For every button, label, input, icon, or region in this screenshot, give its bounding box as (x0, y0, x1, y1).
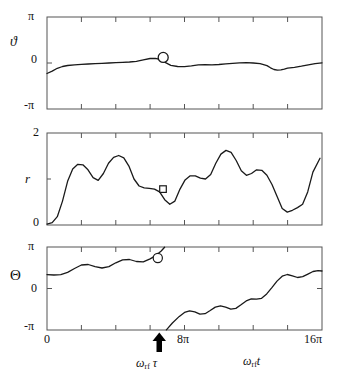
panel-theta-curve-branch1 (47, 247, 165, 275)
panel-vartheta-ylabel: ϑ (10, 35, 17, 49)
panel-vartheta-ytick-zero: 0 (31, 53, 37, 65)
figure-container: ϑ π 0 -π (0, 0, 348, 383)
panel-vartheta-frame (47, 17, 322, 109)
panel-theta-ylabel: Θ (10, 268, 21, 283)
xaxis-title-t: t (257, 354, 260, 368)
tau-arrow-group (0, 0, 348, 383)
panel-r-plot (0, 0, 348, 383)
panel-vartheta-ytick-negpi: -π (24, 99, 34, 111)
panel-theta-curve-branch2 (166, 271, 322, 330)
panel-vartheta-bottom-ticks (81, 104, 287, 109)
panel-r-top-ticks (81, 133, 287, 138)
xaxis-title: ωrft (243, 355, 260, 369)
tau-annotation-label: ωrf τ (136, 357, 157, 371)
panel-r-curve (47, 150, 320, 224)
panel-vartheta-ytick-pi: π (28, 10, 34, 22)
xaxis-tick-8pi: 8π (177, 333, 189, 345)
panel-theta-ytick-zero: 0 (31, 282, 37, 294)
panel-vartheta-plot (0, 0, 348, 383)
panel-theta-top-ticks (81, 247, 287, 252)
tau-arrow-icon (153, 333, 167, 353)
panel-theta-ytick-negpi: -π (24, 320, 34, 332)
panel-r-marker-square (160, 186, 167, 193)
panel-theta-frame (47, 247, 322, 330)
panel-theta-plot (0, 0, 348, 383)
xaxis-tick-0: 0 (44, 333, 50, 345)
panel-theta-ytick-pi: π (28, 240, 34, 252)
xaxis-tick-16pi: 16π (304, 333, 322, 345)
panel-r-ylabel: r (25, 172, 30, 185)
panel-r-bottom-ticks (81, 220, 287, 225)
panel-theta-marker-circle (153, 253, 162, 262)
panel-theta-bottom-ticks (81, 325, 287, 330)
panel-r-ytick-two: 2 (33, 126, 39, 138)
panel-vartheta-top-ticks (81, 17, 287, 22)
panel-vartheta-marker-circle (158, 52, 168, 62)
panel-r-ytick-zero: 0 (33, 216, 39, 228)
panel-r-frame (47, 133, 322, 225)
tau-annotation-tau: τ (153, 356, 157, 370)
tau-annotation-subscript: rf (144, 362, 149, 371)
panel-vartheta-curve (47, 58, 322, 73)
